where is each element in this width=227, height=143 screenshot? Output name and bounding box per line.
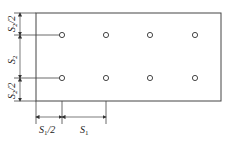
- hole-r2-c1: [59, 75, 64, 80]
- label-s1: S1: [80, 124, 89, 137]
- hole-r1-c4: [192, 32, 197, 37]
- label-s2-half-top: S2/2: [6, 16, 19, 32]
- hole-r2-c4: [192, 75, 197, 80]
- hole-r1-c3: [147, 32, 152, 37]
- label-s2-half-bottom: S2/2: [6, 83, 19, 99]
- hole-r1-c1: [59, 32, 64, 37]
- holes: [59, 32, 197, 80]
- hole-layout-diagram: S2/2 S2 S2/2 S1/2 S1: [0, 0, 227, 143]
- label-s2: S2: [6, 55, 19, 64]
- label-s1-half: S1/2: [39, 124, 55, 137]
- plate-outline: [36, 13, 221, 101]
- hole-r2-c2: [103, 75, 108, 80]
- hole-r1-c2: [103, 32, 108, 37]
- hole-r2-c3: [147, 75, 152, 80]
